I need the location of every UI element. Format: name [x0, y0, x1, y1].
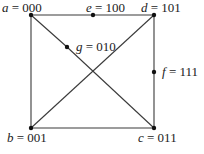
node-f [152, 70, 156, 74]
node-label-d: d = 101 [141, 0, 181, 15]
node-g [65, 45, 69, 49]
node-label-g: g = 010 [76, 39, 116, 54]
node-label-e: e = 100 [86, 0, 125, 15]
edge-g-c [67, 47, 154, 128]
edges-group [31, 15, 154, 128]
node-label-a: a = 000 [2, 0, 42, 15]
node-label-b: b = 001 [7, 130, 47, 145]
node-label-c: c = 011 [138, 130, 177, 145]
edge-a-g [31, 15, 67, 47]
graph-diagram: a = 000e = 100d = 101g = 010f = 111b = 0… [0, 0, 204, 154]
node-label-f: f = 111 [162, 64, 198, 79]
